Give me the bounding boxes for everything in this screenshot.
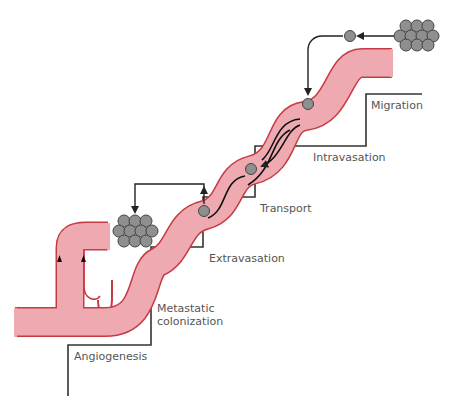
metastatic-tumor-cluster (113, 215, 158, 247)
diagram-canvas (0, 0, 457, 405)
step-label-extravasation: Extravasation (209, 252, 285, 266)
step-label-transport: Transport (260, 202, 312, 216)
tumor-cell (345, 31, 356, 42)
step-label-colonization: colonization (157, 315, 223, 329)
step-label-angiogenesis: Angiogenesis (74, 350, 147, 364)
primary-tumor-cluster (394, 20, 439, 51)
tumor-cell (199, 206, 210, 217)
step-label-migration: Migration (371, 99, 423, 113)
step-label-intravasation: Intravasation (313, 151, 386, 165)
metastasis-diagram: Migration Intravasation Transport Extrav… (0, 0, 457, 405)
tumor-cell (246, 164, 257, 175)
step-label-metastatic: Metastatic (157, 302, 215, 316)
tumor-cell (303, 99, 314, 110)
